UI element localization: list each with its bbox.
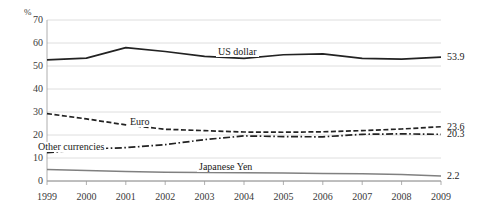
series-label-other-currencies: Other currencies (36, 142, 106, 152)
gridlines (47, 20, 441, 181)
series-label-euro: Euro (128, 117, 151, 127)
currency-share-line-chart: % 010203040506070 1999200020012002200320… (0, 0, 488, 215)
end-value-other-currencies: 20.3 (447, 129, 465, 139)
end-value-us-dollar: 53.9 (447, 52, 465, 62)
series-line-euro (47, 114, 441, 133)
series-label-us-dollar: US dollar (216, 47, 259, 57)
series-label-japanese-yen: Japanese Yen (197, 162, 254, 172)
x-axis-tick-marks (47, 181, 441, 185)
end-value-japanese-yen: 2.2 (447, 171, 460, 181)
plot-area (0, 0, 488, 215)
